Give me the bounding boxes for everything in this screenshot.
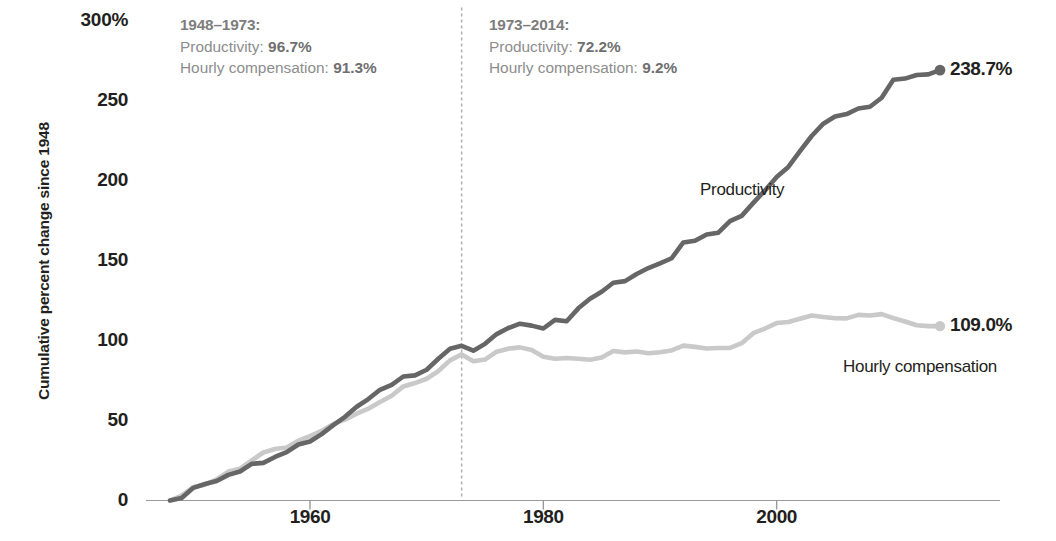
series-label-hourly-compensation: Hourly compensation bbox=[843, 357, 997, 377]
endpoint-dot-hourly-compensation bbox=[935, 321, 945, 331]
annotation-left-compensation-value: 91.3% bbox=[333, 59, 377, 76]
end-value-productivity: 238.7% bbox=[950, 58, 1012, 80]
annotation-right-heading: 1973–2014: bbox=[489, 14, 677, 36]
series-line-productivity bbox=[170, 70, 940, 500]
annotation-right-productivity-row: Productivity: 72.2% bbox=[489, 36, 677, 58]
annotation-1948-1973: 1948–1973: Productivity: 96.7% Hourly co… bbox=[180, 14, 377, 79]
annotation-right-productivity-value: 72.2% bbox=[577, 38, 621, 55]
x-axis-tick-marks bbox=[310, 501, 777, 510]
annotation-left-productivity-value: 96.7% bbox=[268, 38, 312, 55]
series-line-hourly-compensation bbox=[170, 314, 940, 500]
annotation-left-productivity-row: Productivity: 96.7% bbox=[180, 36, 377, 58]
annotation-right-compensation-row: Hourly compensation: 9.2% bbox=[489, 57, 677, 79]
annotation-1973-2014: 1973–2014: Productivity: 72.2% Hourly co… bbox=[489, 14, 677, 79]
series-label-productivity: Productivity bbox=[700, 180, 784, 200]
annotation-left-productivity-label: Productivity: bbox=[180, 38, 268, 55]
annotation-left-heading: 1948–1973: bbox=[180, 14, 377, 36]
end-value-hourly-compensation: 109.0% bbox=[950, 314, 1012, 336]
annotation-left-compensation-label: Hourly compensation: bbox=[180, 59, 333, 76]
annotation-right-compensation-label: Hourly compensation: bbox=[489, 59, 642, 76]
productivity-pay-gap-chart: Cumulative percent change since 1948 300… bbox=[0, 0, 1056, 541]
annotation-left-compensation-row: Hourly compensation: 91.3% bbox=[180, 57, 377, 79]
endpoint-dot-productivity bbox=[935, 65, 946, 76]
annotation-right-compensation-value: 9.2% bbox=[642, 59, 677, 76]
annotation-right-productivity-label: Productivity: bbox=[489, 38, 577, 55]
plot-area bbox=[0, 0, 1056, 541]
